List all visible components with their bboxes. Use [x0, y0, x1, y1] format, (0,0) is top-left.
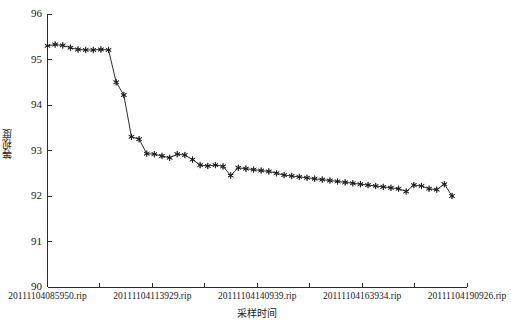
x-tick-label: 20111104190926.rip — [407, 291, 511, 301]
x-tick-label: 20111104140939.rip — [197, 291, 317, 301]
tick-marks-group — [48, 14, 468, 287]
y-tick-label: 91 — [18, 235, 42, 247]
data-series-group — [48, 44, 453, 196]
x-axis-title: 采样时间 — [197, 305, 317, 320]
data-point-marker — [129, 134, 134, 140]
y-tick-label: 92 — [18, 189, 42, 201]
y-axis-title: 等视度 — [2, 129, 13, 159]
data-point-marker — [136, 136, 141, 142]
data-point-marker — [190, 157, 195, 163]
y-tick-label: 94 — [18, 98, 42, 110]
x-tick-label: 20111104113929.rip — [92, 291, 212, 301]
x-tick-label: 20111104085950.rip — [0, 291, 108, 301]
data-markers-group — [45, 41, 455, 199]
y-tick-label: 95 — [18, 53, 42, 65]
y-tick-label: 93 — [18, 144, 42, 156]
x-tick-label: 20111104163934.rip — [302, 291, 422, 301]
data-polyline — [48, 44, 453, 196]
y-tick-label: 96 — [18, 7, 42, 19]
axes-group — [48, 14, 468, 287]
